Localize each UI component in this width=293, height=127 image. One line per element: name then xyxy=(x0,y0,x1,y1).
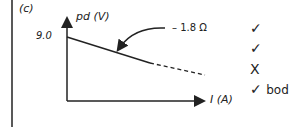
tick-icon: ✓ xyxy=(250,20,262,36)
annotation-arrow xyxy=(120,28,165,47)
graph-line-extrapolated xyxy=(150,63,205,75)
mark-3: X xyxy=(250,61,260,77)
mark-4: ✓ bod xyxy=(250,81,289,97)
y-intercept-label: 9.0 xyxy=(36,30,52,41)
slope-annotation: – 1.8 Ω xyxy=(172,22,207,33)
mark-2: ✓ xyxy=(250,40,262,56)
tick-icon: ✓ xyxy=(250,40,262,56)
x-axis-label: I (A) xyxy=(210,93,233,106)
graph-line-solid xyxy=(67,37,150,63)
tick-icon: ✓ xyxy=(250,81,262,97)
part-label: (c) xyxy=(19,2,34,15)
y-axis-label: pd (V) xyxy=(76,10,110,23)
cross-icon: X xyxy=(250,61,260,77)
mark-note: bod xyxy=(266,83,289,97)
mark-1: ✓ xyxy=(250,20,262,36)
